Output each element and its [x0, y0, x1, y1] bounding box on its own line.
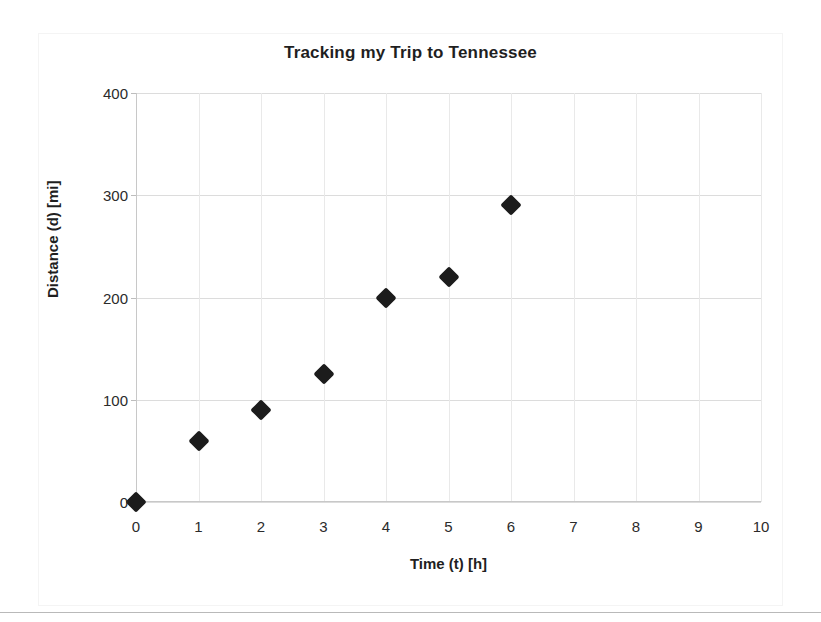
gridline-vertical: [324, 93, 325, 502]
y-axis-tick-label: 400: [76, 85, 128, 102]
chart-screenshot: Tracking my Trip to Tennessee 0100200300…: [0, 0, 821, 622]
x-axis-tick-label: 2: [241, 518, 281, 535]
y-axis-title: Distance (d) [mi]: [44, 180, 61, 298]
y-axis-tick: [131, 195, 136, 196]
x-axis-tick-label: 10: [741, 518, 781, 535]
y-axis-tick-label: 0: [76, 494, 128, 511]
gridline-vertical: [261, 93, 262, 502]
y-axis-tick-labels: 0100200300400: [76, 93, 128, 502]
y-axis-tick: [131, 93, 136, 94]
y-axis-tick: [131, 400, 136, 401]
chart-title: Tracking my Trip to Tennessee: [0, 43, 821, 63]
y-axis-line: [136, 93, 137, 502]
gridline-vertical: [574, 93, 575, 502]
x-axis-tick-label: 1: [179, 518, 219, 535]
x-axis-tick-label: 9: [679, 518, 719, 535]
gridline-vertical: [511, 93, 512, 502]
gridline-vertical: [636, 93, 637, 502]
y-axis-tick-label: 100: [76, 391, 128, 408]
gridline-vertical: [761, 93, 762, 502]
x-axis-tick-label: 6: [491, 518, 531, 535]
plot-area: [136, 93, 761, 502]
x-axis-line: [136, 501, 761, 502]
x-axis-title: Time (t) [h]: [136, 555, 761, 572]
x-axis-tick-labels: 012345678910: [136, 518, 761, 540]
y-axis-tick-label: 200: [76, 289, 128, 306]
y-axis-tick: [131, 298, 136, 299]
x-axis-tick-label: 7: [554, 518, 594, 535]
page-bottom-rule: [0, 612, 821, 613]
gridline-vertical: [699, 93, 700, 502]
x-axis-tick-label: 4: [366, 518, 406, 535]
y-axis-tick-label: 300: [76, 187, 128, 204]
gridline-horizontal: [136, 502, 761, 503]
x-axis-tick-label: 3: [304, 518, 344, 535]
x-axis-tick-label: 8: [616, 518, 656, 535]
x-axis-tick-label: 5: [429, 518, 469, 535]
x-axis-tick-label: 0: [116, 518, 156, 535]
gridline-vertical: [449, 93, 450, 502]
